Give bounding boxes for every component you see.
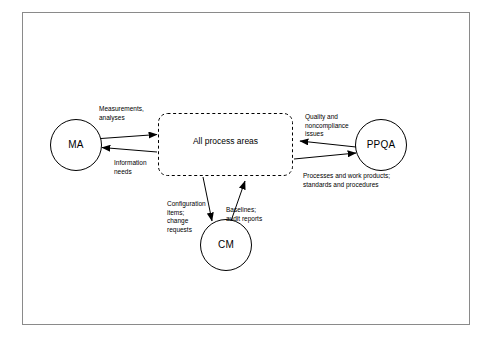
edge-box-to-ppqa — [294, 153, 356, 159]
edge-box-to-ma — [102, 148, 157, 153]
ma-node-circle — [51, 120, 102, 171]
edge-box-to-cm — [203, 177, 212, 221]
cm-node-circle — [201, 220, 252, 271]
edge-ma-to-box — [101, 135, 157, 139]
edge-cm-to-box — [231, 181, 245, 221]
all-process-areas-box — [159, 114, 293, 176]
diagram-canvas — [0, 0, 491, 341]
ppqa-node-circle — [356, 120, 407, 171]
edge-ppqa-to-box — [300, 141, 356, 147]
diagram-page: All process areas MA PPQA CM Measurement… — [0, 0, 491, 341]
